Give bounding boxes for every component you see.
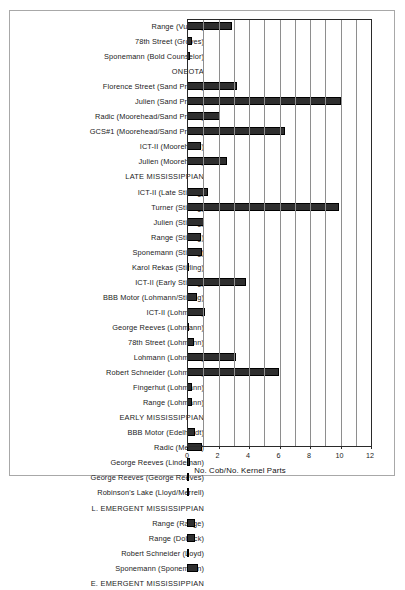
era-label: LATE MISSISSIPPIAN — [22, 169, 204, 184]
bar-row: ICT-II (Moorehead) — [10, 139, 394, 154]
bar-row: ICT-II (Late Stirling) — [10, 185, 394, 200]
bar — [187, 549, 189, 557]
category-label: Robert Schneider (Loyd) — [22, 546, 204, 561]
x-axis-title: No. Cob/No. Kernel Parts — [10, 466, 394, 475]
category-label: GCS#1 (Moorehead/Sand Prairie) — [22, 124, 204, 139]
bar — [187, 248, 202, 256]
bar-slot — [187, 94, 394, 109]
category-label: Sponemann (Stirling) — [22, 245, 204, 260]
era-label: EARLY MISSISSIPPIAN — [22, 410, 204, 425]
bar-slot — [187, 154, 394, 169]
bar — [187, 52, 190, 60]
bar-slot — [187, 516, 394, 531]
x-tick-label: 6 — [277, 451, 281, 460]
bar-slot — [187, 561, 394, 576]
bar-row: Robert Schneider (Lohmann) — [10, 365, 394, 380]
era-header-row: LATE MISSISSIPPIAN — [10, 169, 394, 184]
category-label: Julien (Moorehead) — [22, 154, 204, 169]
bar-slot — [187, 49, 394, 64]
bar-row: BBB Motor (Edelhardt) — [10, 425, 394, 440]
bar-slot — [187, 34, 394, 49]
bar-row: Radic (Moorehead/Sand Prairie) — [10, 109, 394, 124]
category-label: BBB Motor (Lohmann/Stirling) — [22, 290, 204, 305]
bar — [187, 428, 195, 436]
bar-row: GCS#1 (Moorehead/Sand Prairie) — [10, 124, 394, 139]
bar-slot — [187, 185, 394, 200]
category-label: Range (Stirling) — [22, 230, 204, 245]
category-label: Robinson's Lake (Lloyd/Merrell) — [22, 485, 204, 500]
bar-slot — [187, 19, 394, 34]
category-label: BBB Motor (Edelhardt) — [22, 425, 204, 440]
bar-row: 78th Street (Lohmann) — [10, 335, 394, 350]
bar-slot — [187, 501, 394, 516]
era-header-row: L. EMERGENT MISSISSIPPIAN — [10, 501, 394, 516]
category-label: ICT-II (Early Stirling) — [22, 275, 204, 290]
bar-row: ICT-II (Lohmann) — [10, 305, 394, 320]
category-label: ICT-II (Lohmann) — [22, 305, 204, 320]
category-label: Julien (Sand Prairie) — [22, 94, 204, 109]
bar-slot — [187, 546, 394, 561]
category-label: 78th Street (Groves) — [22, 34, 204, 49]
bar-slot — [187, 124, 394, 139]
category-label: Radic (Moorehead/Sand Prairie) — [22, 109, 204, 124]
category-label: Sponemann (Sponemann) — [22, 561, 204, 576]
x-axis-title-text: No. Cob/No. Kernel Parts — [194, 466, 286, 475]
bar-slot — [187, 215, 394, 230]
bar-slot — [187, 395, 394, 410]
bar-row: Robinson's Lake (Lloyd/Merrell) — [10, 485, 394, 500]
category-label: Turner (Stirling) — [22, 200, 204, 215]
bar — [187, 37, 192, 45]
category-label: George Reeves (Lohmann) — [22, 320, 204, 335]
bar-row: ICT-II (Early Stirling) — [10, 275, 394, 290]
bar — [187, 368, 279, 376]
bar-slot — [187, 230, 394, 245]
x-tick-label: 2 — [216, 451, 220, 460]
bar-row: 78th Street (Groves) — [10, 34, 394, 49]
category-label: Julien (Stirling) — [22, 215, 204, 230]
era-header-row: ONEOTA — [10, 64, 394, 79]
bar — [187, 488, 189, 496]
bar — [187, 188, 208, 196]
bar — [187, 293, 197, 301]
bar — [187, 278, 246, 286]
bar-row: Range (Lohmann) — [10, 395, 394, 410]
category-label: Florence Street (Sand Prairie) — [22, 79, 204, 94]
category-label: Fingerhut (Lohmann) — [22, 380, 204, 395]
bar-slot — [187, 576, 394, 590]
bar — [187, 22, 232, 30]
bar-row: Karol Rekas (Stirling) — [10, 260, 394, 275]
bar-slot — [187, 320, 394, 335]
bar-row: Range (Stirling) — [10, 230, 394, 245]
bar-slot — [187, 109, 394, 124]
bar-row: Julien (Sand Prairie) — [10, 94, 394, 109]
bar-row: BBB Motor (Lohmann/Stirling) — [10, 290, 394, 305]
bar-row: Robert Schneider (Loyd) — [10, 546, 394, 561]
bar-slot — [187, 139, 394, 154]
bar — [187, 157, 227, 165]
category-label: ICT-II (Moorehead) — [22, 139, 204, 154]
era-label: L. EMERGENT MISSISSIPPIAN — [22, 501, 204, 516]
bar-row: Julien (Moorehead) — [10, 154, 394, 169]
bar-slot — [187, 410, 394, 425]
bar — [187, 519, 195, 527]
bar — [187, 564, 198, 572]
x-tick-label: 4 — [246, 451, 250, 460]
bar-slot — [187, 290, 394, 305]
bar-row: George Reeves (Lohmann) — [10, 320, 394, 335]
bar-slot — [187, 485, 394, 500]
category-label: 78th Street (Lohmann) — [22, 335, 204, 350]
bar — [187, 82, 237, 90]
bar-row: Florence Street (Sand Prairie) — [10, 79, 394, 94]
category-label: Karol Rekas (Stirling) — [22, 260, 204, 275]
bar-row: Sponemann (Sponemann) — [10, 561, 394, 576]
category-label: Robert Schneider (Lohmann) — [22, 365, 204, 380]
category-label: Range (Vulcan) — [22, 19, 204, 34]
bar — [187, 383, 192, 391]
era-header-row: EARLY MISSISSIPPIAN — [10, 410, 394, 425]
category-label: ICT-II (Late Stirling) — [22, 185, 204, 200]
bar-slot — [187, 275, 394, 290]
bar — [187, 142, 201, 150]
category-label: Range (Range) — [22, 516, 204, 531]
category-label: Sponemann (Bold Counselor) — [22, 49, 204, 64]
bar-rows-container: Range (Vulcan)78th Street (Groves)Sponem… — [10, 19, 394, 590]
